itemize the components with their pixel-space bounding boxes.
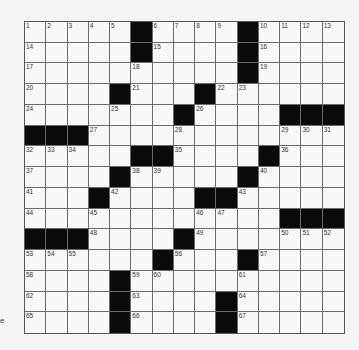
grid-cell[interactable]: 59 [131,271,152,292]
grid-cell[interactable] [110,146,131,167]
grid-cell[interactable] [46,312,67,333]
grid-cell[interactable] [238,146,259,167]
grid-cell[interactable]: 23 [238,84,259,105]
grid-cell[interactable]: 41 [25,188,46,209]
grid-cell[interactable] [259,105,280,126]
grid-cell[interactable] [301,271,322,292]
grid-cell[interactable]: 22 [216,84,237,105]
grid-cell[interactable] [89,63,110,84]
grid-cell[interactable] [153,63,174,84]
grid-cell[interactable] [238,126,259,147]
grid-cell[interactable] [259,209,280,230]
grid-cell[interactable] [195,146,216,167]
grid-cell[interactable] [89,146,110,167]
grid-cell[interactable] [323,271,344,292]
grid-cell[interactable]: 12 [301,22,322,43]
grid-cell[interactable] [174,292,195,313]
grid-cell[interactable]: 13 [323,22,344,43]
grid-cell[interactable] [323,292,344,313]
grid-cell[interactable]: 7 [174,22,195,43]
grid-cell[interactable] [110,209,131,230]
grid-cell[interactable] [46,43,67,64]
grid-cell[interactable] [301,188,322,209]
grid-cell[interactable] [195,312,216,333]
grid-cell[interactable]: 29 [280,126,301,147]
grid-cell[interactable]: 24 [25,105,46,126]
grid-cell[interactable] [238,105,259,126]
grid-cell[interactable] [46,292,67,313]
grid-cell[interactable]: 9 [216,22,237,43]
grid-cell[interactable] [323,63,344,84]
grid-cell[interactable] [238,229,259,250]
grid-cell[interactable]: 55 [68,250,89,271]
grid-cell[interactable] [301,84,322,105]
grid-cell[interactable] [323,84,344,105]
grid-cell[interactable] [131,250,152,271]
grid-cell[interactable] [153,229,174,250]
grid-cell[interactable] [280,250,301,271]
grid-cell[interactable]: 14 [25,43,46,64]
grid-cell[interactable] [195,43,216,64]
grid-cell[interactable]: 47 [216,209,237,230]
grid-cell[interactable]: 6 [153,22,174,43]
grid-cell[interactable] [68,43,89,64]
grid-cell[interactable]: 21 [131,84,152,105]
grid-cell[interactable] [131,209,152,230]
grid-cell[interactable] [89,312,110,333]
grid-cell[interactable]: 42 [110,188,131,209]
grid-cell[interactable] [216,250,237,271]
grid-cell[interactable] [195,63,216,84]
grid-cell[interactable]: 46 [195,209,216,230]
grid-cell[interactable]: 43 [238,188,259,209]
grid-cell[interactable]: 11 [280,22,301,43]
grid-cell[interactable]: 66 [131,312,152,333]
grid-cell[interactable]: 67 [238,312,259,333]
grid-cell[interactable] [110,43,131,64]
grid-cell[interactable] [216,167,237,188]
grid-cell[interactable] [259,271,280,292]
grid-cell[interactable] [216,146,237,167]
grid-cell[interactable]: 1 [25,22,46,43]
grid-cell[interactable] [323,43,344,64]
grid-cell[interactable] [131,229,152,250]
grid-cell[interactable]: 15 [153,43,174,64]
grid-cell[interactable]: 20 [25,84,46,105]
grid-cell[interactable]: 33 [46,146,67,167]
grid-cell[interactable] [153,84,174,105]
grid-cell[interactable] [174,84,195,105]
grid-cell[interactable] [259,188,280,209]
grid-cell[interactable] [153,312,174,333]
grid-cell[interactable]: 37 [25,167,46,188]
grid-cell[interactable] [280,312,301,333]
grid-cell[interactable]: 36 [280,146,301,167]
grid-cell[interactable]: 51 [301,229,322,250]
grid-cell[interactable]: 2 [46,22,67,43]
grid-cell[interactable]: 61 [238,271,259,292]
grid-cell[interactable] [301,312,322,333]
grid-cell[interactable] [153,105,174,126]
grid-cell[interactable] [280,292,301,313]
grid-cell[interactable] [301,146,322,167]
grid-cell[interactable] [68,63,89,84]
grid-cell[interactable] [153,126,174,147]
grid-cell[interactable]: 18 [131,63,152,84]
grid-cell[interactable]: 28 [174,126,195,147]
grid-cell[interactable] [259,229,280,250]
grid-cell[interactable] [174,43,195,64]
grid-cell[interactable] [323,167,344,188]
grid-cell[interactable] [280,167,301,188]
grid-cell[interactable] [89,84,110,105]
grid-cell[interactable] [301,63,322,84]
grid-cell[interactable] [323,250,344,271]
grid-cell[interactable] [131,105,152,126]
grid-cell[interactable] [46,105,67,126]
grid-cell[interactable] [301,43,322,64]
grid-cell[interactable] [68,312,89,333]
grid-cell[interactable]: 63 [131,292,152,313]
grid-cell[interactable] [323,188,344,209]
grid-cell[interactable]: 44 [25,209,46,230]
grid-cell[interactable] [131,188,152,209]
grid-cell[interactable] [174,188,195,209]
grid-cell[interactable] [280,84,301,105]
grid-cell[interactable] [174,167,195,188]
